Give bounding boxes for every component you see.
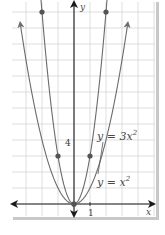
quadratic-graph-figure: y x 1 4 y = 3x2 y = x2 <box>0 0 165 235</box>
x-tick-label-1: 1 <box>88 208 94 218</box>
data-point <box>55 153 60 158</box>
coordinate-plane: y x 1 4 y = 3x2 y = x2 <box>0 0 165 235</box>
equation-x-text: y = x <box>96 176 126 189</box>
equation-3x-exponent: 2 <box>132 129 138 137</box>
equation-label-3x-squared: y = 3x2 <box>96 129 138 143</box>
equation-label-x-squared: y = x2 <box>96 175 131 189</box>
y-axis-label: y <box>79 2 86 12</box>
y-tick-label-4: 4 <box>65 138 71 148</box>
data-point <box>103 9 108 14</box>
x-axis-label: x <box>146 207 151 217</box>
plot-background <box>10 0 156 217</box>
equation-x-exponent: 2 <box>125 175 131 183</box>
data-point <box>71 201 76 206</box>
data-point <box>87 153 92 158</box>
equation-3x-text: y = 3x <box>96 130 133 143</box>
data-point <box>39 9 44 14</box>
